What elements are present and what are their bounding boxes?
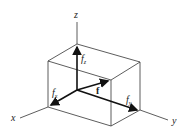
fx-label: fx [52,87,58,99]
vectors [51,47,137,110]
fy-label: fy [126,94,132,106]
y-axis [140,110,168,120]
y-label: y [171,115,177,126]
f-arrow [77,81,108,90]
x-axis [20,107,48,118]
fz-label: fz [81,53,87,65]
x-label: x [10,112,16,123]
axes [20,22,168,120]
z-label: z [73,9,78,20]
f-label: f [96,85,100,96]
vector-components-diagram: z x y fz fx fy f [0,0,182,138]
